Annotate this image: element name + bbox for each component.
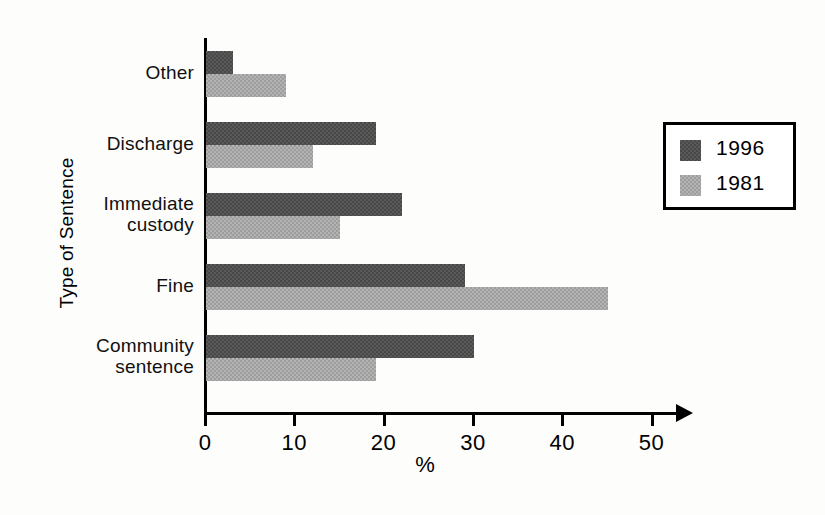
category-label-line: sentence (10, 356, 194, 377)
x-axis-tick-label: 50 (627, 430, 677, 456)
bar-1981-community-sentence (206, 358, 376, 381)
bar-1981-discharge (206, 145, 313, 168)
legend-swatch-icon (680, 175, 701, 196)
category-label-immediate-custody: Immediatecustody (10, 193, 194, 235)
bar-1996-immediate-custody (206, 193, 402, 216)
bar-1996-community-sentence (206, 335, 474, 358)
x-axis-tick-label: 40 (537, 430, 587, 456)
category-label-line: Community (10, 335, 194, 356)
category-label-discharge: Discharge (10, 133, 194, 154)
bar-1996-discharge (206, 122, 376, 145)
plot-area: 01020304050 (204, 38, 704, 415)
category-axis-labels: OtherDischargeImmediatecustodyFineCommun… (0, 0, 194, 515)
category-label-community-sentence: Communitysentence (10, 335, 194, 377)
x-axis-tick (293, 415, 296, 426)
bar-chart: Type of Sentence OtherDischargeImmediate… (0, 0, 825, 515)
x-axis-tick (383, 415, 386, 426)
x-axis-tick-label: 10 (269, 430, 319, 456)
category-label-line: Fine (10, 275, 194, 296)
bar-1981-fine (206, 287, 608, 310)
legend: 19961981 (663, 122, 796, 210)
bar-1981-other (206, 74, 286, 97)
legend-swatch-icon (680, 140, 701, 161)
legend-label: 1981 (716, 171, 765, 195)
x-axis-tick (204, 415, 207, 426)
x-axis-title: % (385, 452, 465, 478)
category-label-line: Discharge (10, 133, 194, 154)
x-axis-line (204, 412, 680, 415)
x-axis-tick (472, 415, 475, 426)
bar-1981-immediate-custody (206, 216, 340, 239)
category-label-line: Other (10, 62, 194, 83)
category-label-line: Immediate (10, 193, 194, 214)
bar-1996-other (206, 51, 233, 74)
legend-label: 1996 (716, 136, 765, 160)
x-axis-tick (561, 415, 564, 426)
x-axis-tick (651, 415, 654, 426)
category-label-line: custody (10, 214, 194, 235)
category-label-other: Other (10, 62, 194, 83)
x-axis-tick-label: 0 (180, 430, 230, 456)
bar-1996-fine (206, 264, 465, 287)
category-label-fine: Fine (10, 275, 194, 296)
x-axis-arrow-icon (676, 404, 693, 422)
